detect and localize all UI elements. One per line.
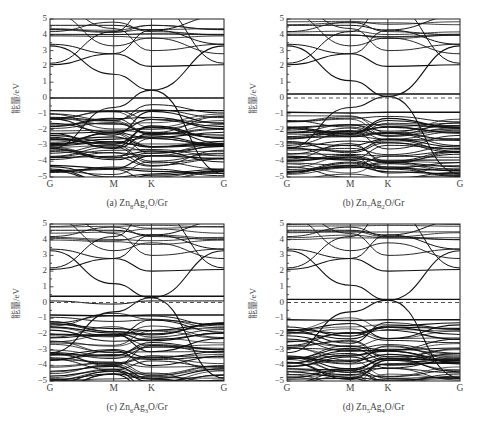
y-tick-label: −3	[270, 344, 284, 354]
y-tick-label: 3	[270, 249, 284, 259]
y-tick-label: 5	[270, 218, 284, 228]
y-tick-label: 2	[270, 265, 284, 275]
y-tick-label: 0	[270, 92, 284, 102]
y-tick-label: 4	[33, 234, 47, 244]
y-tick-label: 4	[270, 234, 284, 244]
y-tick-label: 1	[33, 281, 47, 291]
y-tick-label: −2	[270, 328, 284, 338]
y-tick-label: 5	[33, 218, 47, 228]
y-tick-label: −3	[33, 139, 47, 149]
y-tick-label: 3	[270, 45, 284, 55]
y-tick-label: −2	[33, 328, 47, 338]
bands	[50, 3, 224, 185]
panel-caption: (b) Zn7Ag2O/Gr	[254, 198, 480, 210]
y-tick-label: 2	[33, 265, 47, 275]
x-tick-label: G	[454, 383, 466, 393]
y-tick-label: −4	[270, 359, 284, 369]
y-axis-label: 能量/eV	[246, 288, 259, 319]
x-tick-label: K	[145, 383, 157, 393]
y-tick-label: −4	[33, 359, 47, 369]
panel-caption: (a) Zn8Ag1O/Gr	[17, 198, 257, 210]
y-axis-label: 能量/eV	[9, 288, 22, 319]
x-tick-label: M	[108, 383, 120, 393]
y-tick-label: 4	[33, 29, 47, 39]
y-tick-label: 0	[270, 297, 284, 307]
y-tick-label: 1	[270, 76, 284, 86]
y-tick-label: 5	[33, 13, 47, 23]
x-tick-label: G	[218, 383, 230, 393]
y-tick-label: −3	[33, 344, 47, 354]
x-tick-label: G	[454, 179, 466, 189]
y-tick-label: 2	[270, 60, 284, 70]
x-tick-label: K	[382, 179, 394, 189]
y-tick-label: 5	[270, 13, 284, 23]
y-tick-label: 1	[33, 76, 47, 86]
y-axis-label: 能量/eV	[9, 83, 22, 114]
x-tick-label: M	[344, 383, 356, 393]
band-panel-a: −5−4−3−2−1012345能量/eVGMKG(a) Zn8Ag1O/Gr	[0, 0, 240, 210]
y-tick-label: 0	[33, 297, 47, 307]
y-tick-label: 0	[33, 92, 47, 102]
y-tick-label: 1	[270, 281, 284, 291]
y-tick-label: −2	[270, 124, 284, 134]
y-tick-label: 3	[33, 249, 47, 259]
bands	[50, 210, 224, 392]
x-tick-label: K	[145, 179, 157, 189]
x-tick-label: M	[108, 179, 120, 189]
x-tick-label: G	[218, 179, 230, 189]
x-tick-label: G	[44, 383, 56, 393]
y-tick-label: −2	[33, 124, 47, 134]
bands	[287, 3, 460, 191]
y-tick-label: −1	[270, 312, 284, 322]
y-tick-label: −1	[33, 312, 47, 322]
x-tick-label: M	[344, 179, 356, 189]
x-tick-label: G	[281, 179, 293, 189]
panel-caption: (d) Zn5Ag4O/Gr	[254, 402, 480, 414]
y-tick-label: 2	[33, 60, 47, 70]
y-axis-label: 能量/eV	[246, 83, 259, 114]
x-tick-label: G	[44, 179, 56, 189]
y-tick-label: −1	[270, 108, 284, 118]
y-tick-label: −1	[33, 108, 47, 118]
y-tick-label: −3	[270, 139, 284, 149]
y-tick-label: 3	[33, 45, 47, 55]
panel-caption: (c) Zn6Ag3O/Gr	[17, 402, 257, 414]
x-tick-label: G	[281, 383, 293, 393]
band-panel-b: −5−4−3−2−1012345能量/eVGMKG(b) Zn7Ag2O/Gr	[240, 0, 480, 210]
band-panel-d: −5−4−3−2−1012345能量/eVGMKG(d) Zn5Ag4O/Gr	[240, 210, 480, 420]
y-tick-label: −4	[270, 155, 284, 165]
band-panel-c: −5−4−3−2−1012345能量/eVGMKG(c) Zn6Ag3O/Gr	[0, 210, 240, 420]
y-tick-label: −4	[33, 155, 47, 165]
x-tick-label: K	[382, 383, 394, 393]
y-tick-label: 4	[270, 29, 284, 39]
